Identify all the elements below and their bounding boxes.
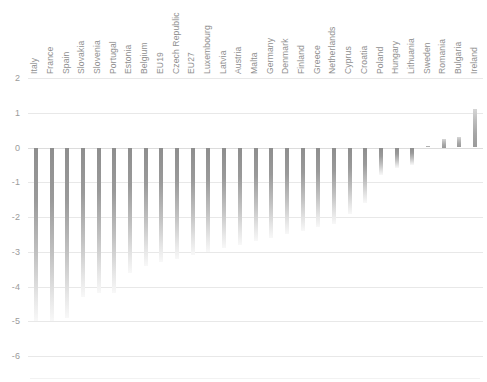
y-axis-tick-label: 0 (15, 143, 20, 153)
bar (426, 146, 430, 148)
bar (269, 148, 273, 238)
bar (128, 148, 132, 273)
y-axis-tick-label: -2 (12, 212, 20, 222)
x-axis-tick-label: EU19 (156, 52, 165, 74)
x-axis-tick-label: Slovakia (77, 41, 86, 74)
x-axis-category-labels: ItalyFranceSpainSlovakiaSloveniaPortugal… (28, 0, 483, 78)
y-axis-tick-label: -5 (12, 316, 20, 326)
bar (81, 148, 85, 297)
x-axis-tick-label: Finland (297, 45, 306, 74)
x-axis-tick-label: Sweden (423, 42, 432, 74)
bar (191, 148, 195, 256)
bar (159, 148, 163, 263)
bar (442, 139, 446, 148)
x-axis-tick-label: Spain (62, 52, 71, 74)
x-axis-tick-label: Belgium (140, 42, 149, 74)
x-axis-tick-label: Denmark (281, 38, 290, 74)
bar (65, 148, 69, 318)
x-axis-tick-label: Netherlands (328, 27, 337, 74)
x-axis-tick-label: Romania (438, 39, 447, 74)
y-axis: 210-1-2-3-4-5-6 (0, 78, 26, 356)
bar (50, 148, 54, 322)
bars-layer (28, 78, 483, 356)
x-axis-tick-label: Croatia (360, 46, 369, 74)
bar (144, 148, 148, 266)
bar (473, 109, 477, 147)
y-axis-tick-label: -3 (12, 247, 20, 257)
gridline--6 (28, 356, 483, 357)
x-axis-tick-label: Slovenia (93, 40, 102, 74)
bar (395, 148, 399, 169)
chart-container: 210-1-2-3-4-5-6 ItalyFranceSpainSlovakia… (0, 0, 487, 382)
x-axis-tick-label: EU27 (187, 52, 196, 74)
plot-area (28, 78, 483, 356)
x-axis-tick-label: Bulgaria (454, 42, 463, 74)
bottom-divider (30, 378, 480, 379)
x-axis-tick-label: Greece (313, 45, 322, 74)
x-axis-tick-label: Austria (234, 47, 243, 74)
bar (348, 148, 352, 214)
bar (379, 148, 383, 176)
bar (112, 148, 116, 294)
x-axis-tick-label: Lithuania (407, 38, 416, 74)
bar (222, 148, 226, 249)
x-axis-tick-label: France (46, 47, 55, 74)
bar (332, 148, 336, 224)
bar (175, 148, 179, 259)
x-axis-tick-label: Germany (266, 38, 275, 74)
bar (301, 148, 305, 231)
x-axis-tick-label: Estonia (124, 45, 133, 74)
bar (457, 137, 461, 147)
x-axis-tick-label: Poland (376, 47, 385, 74)
bar (206, 148, 210, 252)
x-axis-tick-label: Hungary (391, 41, 400, 74)
y-axis-tick-label: -1 (12, 177, 20, 187)
x-axis-tick-label: Ireland (470, 47, 479, 74)
bar (285, 148, 289, 235)
bar (34, 148, 38, 322)
x-axis-tick-label: Luxembourg (203, 25, 212, 74)
x-axis-tick-label: Malta (250, 52, 259, 74)
x-axis-tick-label: Latvia (219, 50, 228, 74)
x-axis-tick-label: Portugal (109, 41, 118, 74)
x-axis-tick-label: Cyprus (344, 46, 353, 74)
bar (410, 148, 414, 165)
x-axis-tick-label: Czech Republic (172, 12, 181, 74)
x-axis-tick-label: Italy (30, 58, 39, 74)
bar (254, 148, 258, 242)
bar (363, 148, 367, 204)
y-axis-tick-label: -6 (12, 351, 20, 361)
y-axis-tick-label: 2 (15, 73, 20, 83)
y-axis-tick-label: 1 (15, 108, 20, 118)
y-axis-tick-label: -4 (12, 282, 20, 292)
bar (316, 148, 320, 228)
bar (238, 148, 242, 245)
bar (97, 148, 101, 294)
